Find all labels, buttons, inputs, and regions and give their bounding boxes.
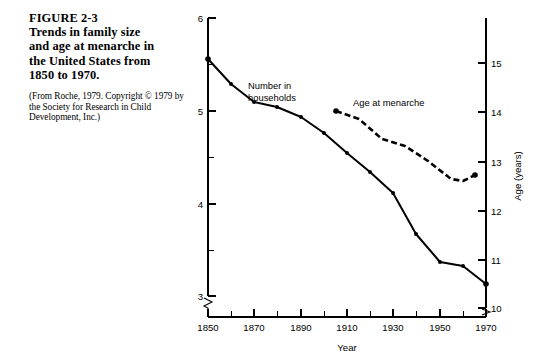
y-axis-right-labels: 15 14 13 12 11 10 — [491, 58, 502, 314]
x-tick-label-1890: 1890 — [290, 322, 311, 333]
y-axis-left-labels: 6 5 4 3 — [198, 13, 204, 302]
y-tick-label-6: 6 — [198, 13, 203, 24]
figure-title-line-1: FIGURE 2-3 — [29, 11, 189, 25]
x-tick-label-1950: 1950 — [429, 322, 450, 333]
y-tick-label-3: 3 — [198, 291, 203, 302]
figure-credit: (From Roche, 1979. Copyright © 1979 by t… — [29, 82, 189, 123]
chart-container: 6 5 4 3 15 14 13 12 11 10 — [196, 6, 546, 356]
y2-tick-label-13: 13 — [491, 157, 502, 168]
y2-tick-label-10: 10 — [491, 303, 502, 314]
x-tick-label-1850: 1850 — [197, 322, 218, 333]
annotation-number-in-households-line2: households — [248, 92, 296, 103]
x-tick-label-1930: 1930 — [382, 322, 403, 333]
figure-title: FIGURE 2-3 Trends in family size and age… — [29, 11, 189, 82]
x-axis-title: Year — [337, 342, 357, 353]
x-tick-label-1870: 1870 — [243, 322, 264, 333]
y2-tick-label-14: 14 — [491, 107, 502, 118]
figure-caption-block: FIGURE 2-3 Trends in family size and age… — [29, 11, 189, 123]
annotation-number-in-households-line1: Number in — [248, 80, 291, 91]
line-chart: 6 5 4 3 15 14 13 12 11 10 — [196, 6, 546, 356]
y-axis-right-title: Age (years) — [512, 151, 523, 201]
y-tick-label-4: 4 — [198, 199, 204, 210]
annotation-age-at-menarche: Age at menarche — [353, 97, 424, 108]
series-age-at-menarche-line — [336, 111, 475, 181]
figure-title-line-3: and age at menarche in — [29, 39, 189, 53]
figure-title-line-5: 1850 to 1970. — [29, 68, 189, 82]
y2-tick-label-12: 12 — [491, 206, 502, 217]
y-tick-label-5: 5 — [198, 106, 203, 117]
x-tick-label-1910: 1910 — [336, 322, 357, 333]
y-axis-left-minor-ticks — [208, 64, 214, 250]
y2-tick-label-11: 11 — [491, 255, 501, 266]
series-age-at-menarche-end-marker — [472, 172, 478, 178]
y-axis-right-ticks — [478, 63, 486, 308]
y2-tick-label-15: 15 — [491, 58, 502, 69]
figure-title-line-2: Trends in family size — [29, 25, 189, 39]
x-axis-labels: 1850 1870 1890 1910 1930 1950 1970 — [197, 322, 496, 333]
series-age-at-menarche-start-marker — [333, 108, 339, 114]
x-axis-major-ticks — [208, 309, 486, 317]
figure-title-line-4: the United States from — [29, 54, 189, 68]
x-tick-label-1970: 1970 — [475, 322, 496, 333]
